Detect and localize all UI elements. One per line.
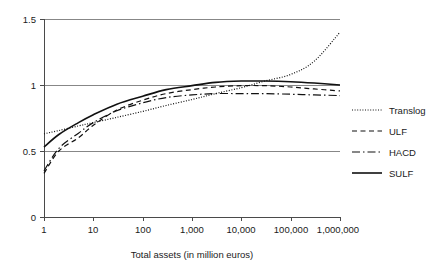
chart-figure: 1.5 1 0.5 0 1 10 100 1,000 10,000 100,00… xyxy=(0,0,436,272)
legend-label-ulf: ULF xyxy=(389,126,407,137)
y-tick-label-0-5: 0.5 xyxy=(23,146,36,157)
x-tick-label-100: 100 xyxy=(135,224,151,235)
y-tick-label-0: 0 xyxy=(31,212,36,223)
legend-label-hacd: HACD xyxy=(389,147,416,158)
x-tick-label-100000: 100,000 xyxy=(274,224,308,235)
chart-canvas: 1.5 1 0.5 0 1 10 100 1,000 10,000 100,00… xyxy=(0,0,436,272)
legend-label-sulf: SULF xyxy=(389,168,413,179)
chart-background xyxy=(0,0,436,272)
legend-label-translog: Translog xyxy=(389,105,426,116)
x-tick-label-1: 1 xyxy=(41,224,46,235)
x-tick-label-1000000: 1,000,000 xyxy=(317,224,359,235)
x-tick-label-10: 10 xyxy=(88,224,99,235)
x-axis-title: Total assets (in million euros) xyxy=(131,249,254,260)
x-tick-label-1000: 1,000 xyxy=(180,224,204,235)
y-tick-label-1-5: 1.5 xyxy=(23,14,36,25)
x-tick-label-10000: 10,000 xyxy=(226,224,255,235)
y-tick-label-1-0: 1 xyxy=(31,80,36,91)
